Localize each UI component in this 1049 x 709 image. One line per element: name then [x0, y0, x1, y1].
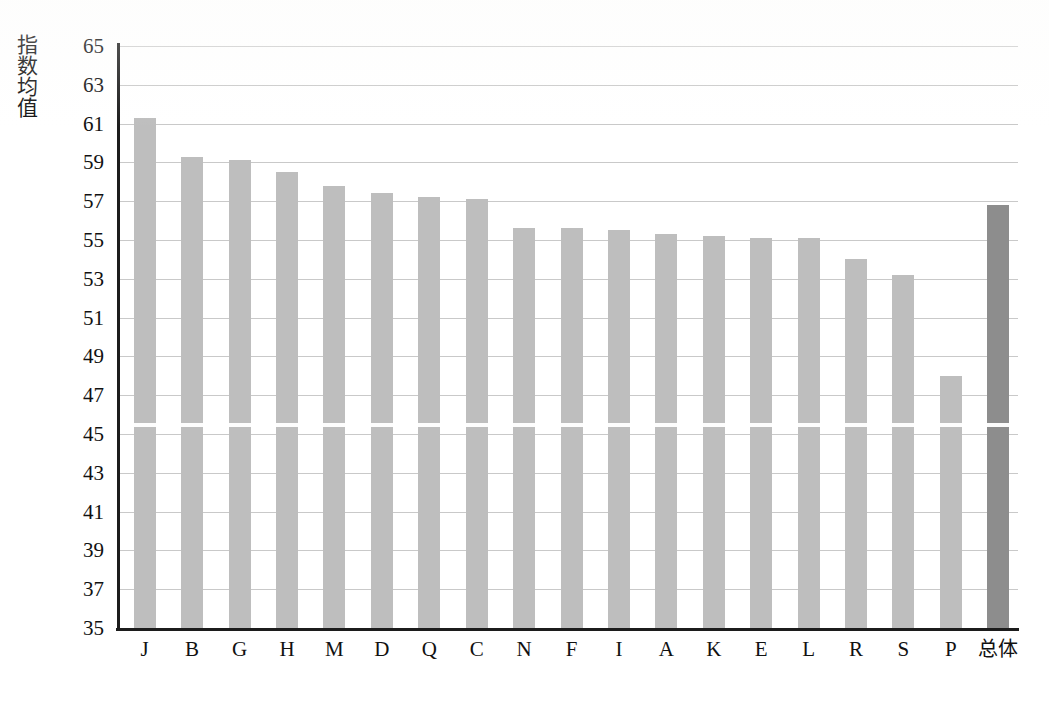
bar-D [371, 193, 393, 628]
x-tick-label-B: B [185, 636, 199, 662]
bar-A [655, 234, 677, 628]
y-tick-label: 43 [60, 462, 104, 483]
x-tick-label-K: K [706, 636, 721, 662]
x-tick-label-C: C [470, 636, 484, 662]
gridline [118, 201, 1018, 202]
bar-chart-figure: 指数均值 65636159575553514947454341393735 JB… [0, 0, 1049, 709]
bar-M [323, 186, 345, 628]
y-axis-title: 指数均值 [8, 34, 38, 118]
y-tick-label: 53 [60, 268, 104, 289]
y-tick-label: 41 [60, 501, 104, 522]
scan-fold-artifact [121, 423, 1014, 427]
y-tick-label: 39 [60, 540, 104, 561]
gridline [118, 85, 1018, 86]
y-tick-label: 57 [60, 191, 104, 212]
bar-N [513, 228, 535, 628]
x-tick-label-L: L [802, 636, 815, 662]
plot-area [117, 46, 1018, 628]
bar-I [608, 230, 630, 628]
bar-P [940, 376, 962, 628]
bar-R [845, 259, 867, 628]
x-axis-line [116, 628, 1019, 631]
bar-E [750, 238, 772, 628]
gridline [118, 46, 1018, 47]
y-tick-label: 35 [60, 618, 104, 639]
x-tick-label-Q: Q [422, 636, 437, 662]
x-tick-label-J: J [141, 636, 149, 662]
x-tick-label-N: N [516, 636, 531, 662]
bar-G [229, 160, 251, 628]
gridline [118, 162, 1018, 163]
x-tick-label-A: A [659, 636, 674, 662]
bar-K [703, 236, 725, 628]
y-tick-label: 47 [60, 385, 104, 406]
bar-J [134, 118, 156, 628]
y-axis-line [117, 43, 120, 628]
bar-Q [418, 197, 440, 628]
y-tick-label: 63 [60, 74, 104, 95]
x-tick-label-I: I [615, 636, 622, 662]
x-tick-label-S: S [898, 636, 910, 662]
bar-B [181, 157, 203, 628]
y-tick-label: 49 [60, 346, 104, 367]
x-tick-label-总体: 总体 [978, 636, 1018, 662]
x-tick-label-E: E [755, 636, 768, 662]
y-tick-label: 59 [60, 152, 104, 173]
y-tick-label: 37 [60, 579, 104, 600]
bar-F [561, 228, 583, 628]
x-tick-label-P: P [945, 636, 957, 662]
bar-C [466, 199, 488, 628]
y-tick-label: 55 [60, 230, 104, 251]
x-tick-label-G: G [232, 636, 247, 662]
y-tick-label: 61 [60, 113, 104, 134]
gridline [118, 124, 1018, 125]
x-tick-label-D: D [374, 636, 389, 662]
y-tick-label: 45 [60, 424, 104, 445]
x-tick-label-R: R [849, 636, 863, 662]
bar-S [892, 275, 914, 628]
bar-L [798, 238, 820, 628]
x-tick-label-F: F [566, 636, 578, 662]
x-tick-label-M: M [325, 636, 344, 662]
bar-H [276, 172, 298, 628]
y-axis-tick-labels: 65636159575553514947454341393735 [56, 46, 104, 628]
x-tick-label-H: H [279, 636, 294, 662]
bar-总体 [987, 205, 1009, 628]
x-axis-tick-labels: JBGHMDQCNFIAKELRSP总体 [117, 636, 1018, 672]
y-tick-label: 65 [60, 36, 104, 57]
y-tick-label: 51 [60, 307, 104, 328]
